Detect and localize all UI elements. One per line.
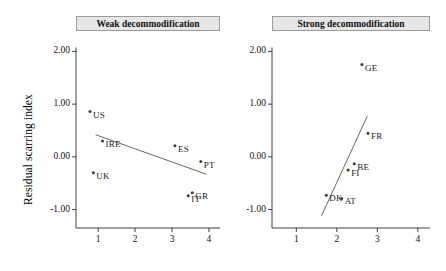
x-axis-tick-label: 2 [322, 234, 352, 244]
data-point-label: UK [96, 171, 109, 181]
y-axis-tick-label: 1.00 [32, 98, 70, 108]
x-axis-tick-label: 2 [120, 234, 150, 244]
x-axis-tick-label: 1 [83, 234, 113, 244]
data-point-label: IRE [106, 139, 121, 149]
x-axis-tick-label: 4 [194, 234, 224, 244]
data-point-label: PT [204, 160, 215, 170]
data-point-label: AT [345, 196, 356, 206]
data-point-label: FR [371, 131, 382, 141]
y-axis-tick-label: 2.00 [32, 45, 70, 55]
data-point [325, 194, 328, 197]
x-axis-tick-label: 3 [157, 234, 187, 244]
data-point-label: DK [329, 193, 342, 203]
x-axis-tick-label: 3 [362, 234, 392, 244]
y-axis-tick-label: -1.00 [32, 204, 70, 214]
y-axis-tick-label: 0.00 [228, 151, 266, 161]
data-point [353, 162, 356, 165]
data-point-label: IT [191, 194, 200, 204]
data-point [360, 63, 363, 66]
y-axis-tick-label: 2.00 [228, 45, 266, 55]
scatter-figure: Residual scarring index Weak decommodifi… [0, 0, 446, 271]
x-axis-tick-label: 4 [403, 234, 433, 244]
data-point-label: GE [365, 63, 377, 73]
y-axis-tick-label: 0.00 [32, 151, 70, 161]
data-point [347, 169, 350, 172]
data-point-label: FI [351, 168, 359, 178]
y-axis-tick-label: -1.00 [228, 204, 266, 214]
data-point-label: ES [178, 144, 189, 154]
data-point-label: US [93, 110, 105, 120]
data-point [367, 132, 370, 135]
x-axis-tick-label: 1 [281, 234, 311, 244]
y-axis-tick-label: 1.00 [228, 98, 266, 108]
